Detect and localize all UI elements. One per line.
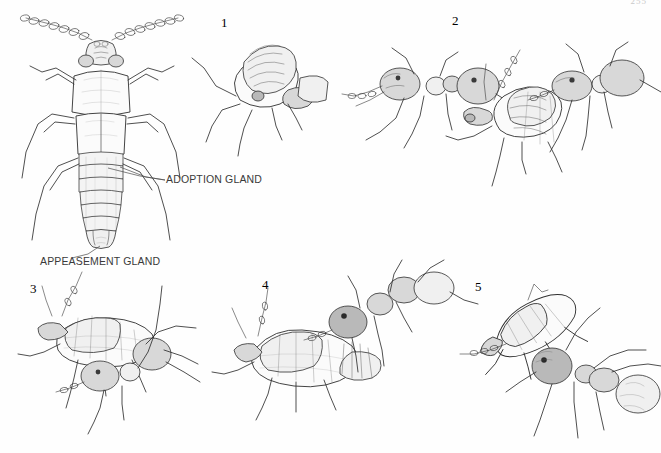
antenna-left xyxy=(20,14,92,40)
figure-1-beetle-meets-ant: 1 xyxy=(192,15,528,156)
illustration-plate: 255 xyxy=(0,0,661,453)
figure-1-ant xyxy=(342,48,528,148)
figure-3-ant-grasps-beetle: 3 xyxy=(18,272,200,434)
figure-5-ant-carries-beetle: 5 xyxy=(460,279,661,438)
dorsal-beetle-diagram xyxy=(20,14,184,258)
adoption-gland-label: ADOPTION GLAND xyxy=(166,173,262,185)
antenna-right xyxy=(112,14,184,40)
beetle-legs-right xyxy=(123,66,180,240)
figure-4-ant-seizes-beetle: 4 xyxy=(212,260,478,420)
plate-artwork: 1 xyxy=(0,0,661,453)
beetle-legs-left xyxy=(22,66,79,240)
appeasement-gland-label: APPEASEMENT GLAND xyxy=(40,255,160,267)
adoption-gland-leader-2 xyxy=(120,167,165,180)
beetle-abdomen xyxy=(79,152,123,233)
beetle-pronotum xyxy=(72,70,130,116)
appeasement-gland-structure xyxy=(86,230,116,249)
figure-3-number: 3 xyxy=(30,281,37,296)
beetle-elytra xyxy=(76,113,126,157)
figure-5-number: 5 xyxy=(475,279,482,294)
beetle-head xyxy=(79,41,124,68)
figure-4-number: 4 xyxy=(262,277,269,292)
figure-2-number: 2 xyxy=(452,13,459,28)
figure-1-number: 1 xyxy=(221,15,228,30)
